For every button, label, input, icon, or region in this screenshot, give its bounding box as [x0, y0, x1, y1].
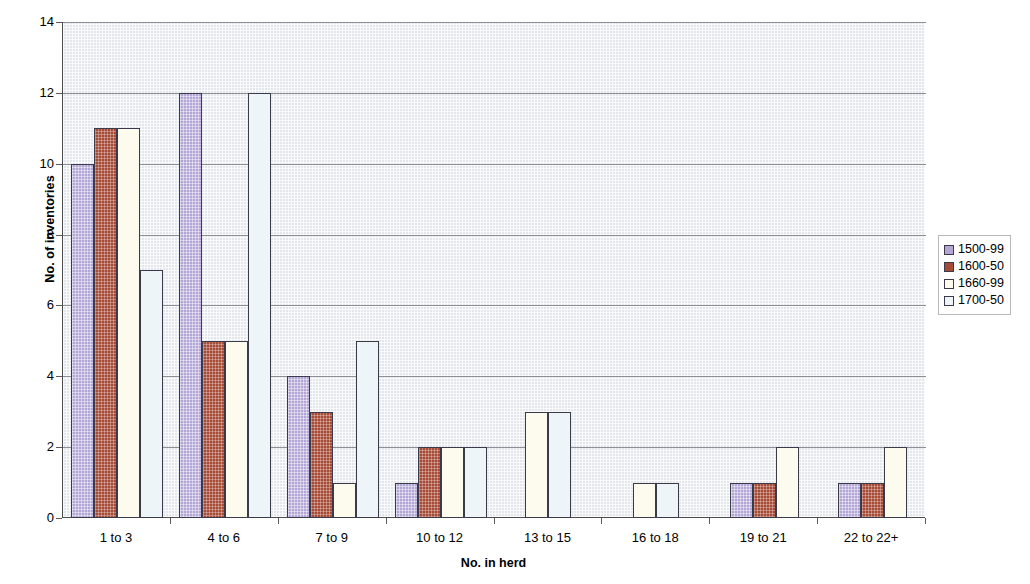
y-axis-tick-label: 4	[20, 369, 54, 382]
x-axis-tick-label: 1 to 3	[62, 530, 170, 545]
x-axis-tick-mark	[494, 518, 495, 524]
legend-swatch-icon	[944, 296, 954, 306]
bar	[861, 483, 884, 518]
bar	[776, 447, 799, 518]
y-axis-tick-mark	[56, 235, 62, 236]
bar	[287, 376, 310, 518]
bar	[395, 483, 418, 518]
legend-label: 1660-99	[958, 277, 1004, 290]
x-axis-tick-label: 13 to 15	[494, 530, 602, 545]
legend-label: 1700-50	[958, 294, 1004, 307]
x-axis-tick-mark	[278, 518, 279, 524]
y-axis-tick-labels: 02468101214	[14, 0, 54, 584]
x-axis-tick-mark	[709, 518, 710, 524]
bar	[71, 164, 94, 518]
bar	[310, 412, 333, 518]
x-axis-tick-label: 19 to 21	[709, 530, 817, 545]
x-axis-tick-label: 22 to 22+	[817, 530, 925, 545]
bar	[94, 128, 117, 518]
bar	[356, 341, 379, 518]
bar-chart: No. of inventories 02468101214 No. in he…	[0, 0, 1030, 584]
legend-item: 1500-99	[944, 241, 1004, 258]
bar	[656, 483, 679, 518]
bar	[333, 483, 356, 518]
y-axis-tick-mark	[56, 447, 62, 448]
y-axis-tick-mark	[56, 93, 62, 94]
x-axis-tick-mark	[601, 518, 602, 524]
legend-swatch-icon	[944, 262, 954, 272]
bar	[248, 93, 271, 518]
y-axis-tick-label: 8	[20, 228, 54, 241]
bar-group	[63, 22, 171, 518]
bar-group	[818, 22, 926, 518]
bar	[730, 483, 753, 518]
bar-group	[279, 22, 387, 518]
legend-item: 1700-50	[944, 292, 1004, 309]
bar-group	[387, 22, 495, 518]
y-axis-tick-mark	[56, 22, 62, 23]
y-axis-tick-mark	[56, 518, 62, 519]
bar	[179, 93, 202, 518]
y-axis-tick-label: 10	[20, 157, 54, 170]
bar	[140, 270, 163, 518]
bar-group	[171, 22, 279, 518]
x-axis-tick-label: 4 to 6	[170, 530, 278, 545]
legend: 1500-991600-501660-991700-50	[938, 235, 1011, 315]
x-axis-tick-label: 16 to 18	[601, 530, 709, 545]
y-axis-tick-mark	[56, 164, 62, 165]
legend-item: 1660-99	[944, 275, 1004, 292]
x-axis-tick-mark	[925, 518, 926, 524]
y-axis-tick-label: 12	[20, 86, 54, 99]
x-axis-tick-mark	[386, 518, 387, 524]
legend-swatch-icon	[944, 279, 954, 289]
y-axis-tick-mark	[56, 376, 62, 377]
bar-group	[602, 22, 710, 518]
bar	[464, 447, 487, 518]
y-axis-tick-label: 0	[20, 511, 54, 524]
bar	[753, 483, 776, 518]
bar	[633, 483, 656, 518]
y-axis-tick-label: 6	[20, 298, 54, 311]
bar	[548, 412, 571, 518]
bar-group	[710, 22, 818, 518]
bar	[838, 483, 861, 518]
y-axis-tick-mark	[56, 305, 62, 306]
bar	[884, 447, 907, 518]
plot-inner	[63, 22, 926, 518]
x-axis-title: No. in herd	[62, 556, 925, 570]
bar	[202, 341, 225, 518]
x-axis-tick-label: 10 to 12	[386, 530, 494, 545]
bar-group	[495, 22, 603, 518]
bar	[525, 412, 548, 518]
x-axis-tick-mark	[817, 518, 818, 524]
legend-label: 1500-99	[958, 243, 1004, 256]
y-axis-tick-label: 2	[20, 440, 54, 453]
y-axis-tick-label: 14	[20, 15, 54, 28]
bar	[117, 128, 140, 518]
legend-label: 1600-50	[958, 260, 1004, 273]
x-axis-tick-mark	[170, 518, 171, 524]
legend-item: 1600-50	[944, 258, 1004, 275]
bar	[418, 447, 441, 518]
legend-swatch-icon	[944, 245, 954, 255]
plot-area	[62, 22, 925, 518]
bar	[225, 341, 248, 518]
bar	[441, 447, 464, 518]
x-axis-tick-label: 7 to 9	[278, 530, 386, 545]
